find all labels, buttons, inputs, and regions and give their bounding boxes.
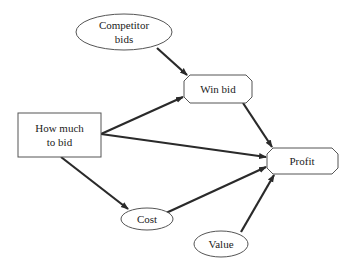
influence-diagram: Competitor bids Win bid How much to bid … (0, 0, 358, 268)
node-label: Win bid (200, 83, 236, 95)
node-label: Cost (137, 213, 157, 225)
node-label: Profit (289, 155, 314, 167)
node-label: Value (208, 238, 233, 250)
node-label-line1: Competitor (99, 19, 149, 31)
edge-howmuch-to-cost (61, 157, 128, 209)
node-win-bid[interactable]: Win bid (184, 75, 252, 103)
edge-competitor-to-winbid (157, 48, 187, 75)
node-label-line2: bids (115, 33, 133, 45)
node-competitor-bids[interactable]: Competitor bids (76, 14, 172, 50)
node-value[interactable]: Value (194, 231, 248, 257)
node-profit[interactable]: Profit (267, 148, 338, 174)
node-label-line2: to bid (47, 136, 73, 148)
node-label-line1: How much (35, 122, 84, 134)
edge-value-to-profit (241, 175, 274, 232)
node-how-much-to-bid[interactable]: How much to bid (18, 113, 101, 157)
edge-cost-to-profit (166, 167, 266, 213)
edge-howmuch-to-winbid (101, 97, 183, 134)
edge-winbid-to-profit (243, 103, 272, 147)
edge-howmuch-to-profit (101, 134, 266, 157)
node-cost[interactable]: Cost (121, 208, 173, 230)
